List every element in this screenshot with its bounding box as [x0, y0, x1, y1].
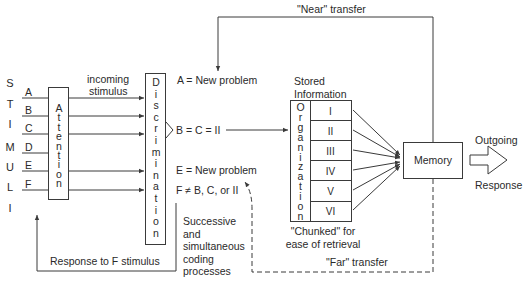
input-label-d: D [25, 142, 33, 153]
chunk-v: V [310, 186, 351, 197]
discrimination-caret [166, 122, 173, 138]
attention-to-discrimination-arrows [68, 98, 144, 190]
stimuli-letter: I [5, 202, 15, 214]
outcome-b-c-ii: B = C = II [176, 125, 220, 136]
diagram-canvas [0, 0, 523, 296]
outgoing-label: Outgoing [475, 135, 518, 146]
incoming-label: incoming [87, 74, 129, 85]
chunk-iv: IV [310, 166, 351, 177]
stimuli-letter: U [5, 161, 15, 173]
discrimination-label: Discrimination [146, 77, 166, 239]
attention-label: Attention [49, 104, 69, 189]
input-label-e: E [25, 160, 32, 171]
chunk-ii: II [310, 126, 351, 137]
chunk-to-memory-arrows [353, 110, 400, 210]
far-transfer-label: "Far" transfer [326, 257, 388, 268]
stimuli-letter: T [5, 98, 15, 110]
input-label-a: A [25, 87, 32, 98]
organization-label: Organization [291, 103, 310, 222]
stimuli-letter: S [5, 77, 15, 89]
response-to-f-label: Response to F stimulus [50, 256, 160, 267]
input-label-b: B [25, 105, 32, 116]
chunk-i: I [310, 106, 351, 117]
stimuli-letter: I [5, 118, 15, 130]
coding-processes-note: Successive and simultaneous coding proce… [183, 215, 245, 278]
outcome-e-new-problem: E = New problem [176, 165, 257, 176]
chunk-iii: III [310, 146, 351, 157]
response-label: Response [475, 180, 522, 191]
stimuli-letter: M [5, 141, 15, 153]
memory-label: Memory [403, 155, 463, 166]
outcome-f-not-equal: F ≠ B, C, or II [176, 185, 238, 196]
stimulus-label: stimulus [89, 86, 128, 97]
outgoing-arrow-icon [470, 146, 507, 174]
outcome-a-new-problem: A = New problem [177, 75, 257, 86]
input-label-f: F [25, 179, 31, 190]
chunk-vi: VI [310, 206, 351, 217]
input-label-c: C [25, 123, 33, 134]
stored-information-label: Stored Information [294, 75, 347, 100]
near-transfer-label: "Near" transfer [297, 4, 366, 15]
chunked-note: "Chunked" for ease of retrieval [283, 225, 363, 250]
stimuli-letter: L [5, 181, 15, 193]
